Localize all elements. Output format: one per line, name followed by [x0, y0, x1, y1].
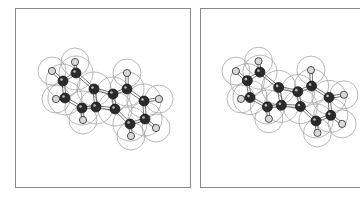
atom-highlight	[141, 98, 144, 101]
carbon-atom	[140, 114, 150, 124]
hydrogen-atom	[314, 129, 321, 136]
atom-highlight	[79, 105, 82, 108]
atom-highlight	[326, 95, 329, 98]
atom-highlight	[309, 83, 312, 86]
hydrogen-atom	[127, 132, 134, 139]
hydrogen-atom	[339, 120, 346, 127]
carbon-atom	[125, 119, 135, 129]
molecule-model-right	[201, 9, 360, 188]
hydrogen-atom	[255, 58, 262, 65]
atom-highlight	[73, 70, 76, 73]
carbon-atom	[58, 76, 68, 86]
atom-highlight	[112, 106, 115, 109]
atom-highlight	[279, 103, 282, 106]
atom-highlight	[110, 91, 113, 94]
atom-highlight	[62, 95, 65, 98]
atom-highlight	[127, 121, 130, 124]
hydrogen-atom	[237, 95, 244, 102]
hydrogen-atom	[307, 67, 314, 74]
carbon-atom	[77, 103, 87, 113]
stereo-panel-right	[200, 8, 360, 188]
hydrogen-atom	[232, 68, 239, 75]
atom-highlight	[313, 118, 316, 121]
carbon-atom	[245, 93, 255, 103]
atom-highlight	[93, 104, 96, 107]
carbon-atom	[274, 82, 284, 92]
carbon-atom	[60, 93, 70, 103]
atom-highlight	[265, 104, 268, 107]
atom-highlight	[60, 78, 63, 81]
atom-highlight	[245, 78, 248, 81]
carbon-atom	[311, 116, 321, 126]
atom-highlight	[295, 89, 298, 92]
carbon-atom	[108, 89, 118, 99]
hydrogen-atom	[340, 91, 347, 98]
hydrogen-atom	[155, 95, 162, 102]
atom-highlight	[257, 69, 260, 72]
hydrogen-atom	[265, 115, 272, 122]
carbon-atom	[139, 96, 149, 106]
carbon-atom	[293, 87, 303, 97]
atom-highlight	[142, 116, 145, 119]
carbon-atom	[324, 92, 334, 102]
carbon-atom	[91, 102, 101, 112]
stereo-panel-left	[15, 8, 191, 188]
atom-highlight	[328, 113, 331, 116]
molecule-model-left	[16, 9, 191, 188]
carbon-atom	[262, 102, 272, 112]
carbon-atom	[326, 110, 336, 120]
carbon-atom	[110, 104, 120, 114]
atom-highlight	[276, 85, 279, 88]
hydrogen-atom	[79, 116, 86, 123]
carbon-atom	[122, 84, 132, 94]
carbon-atom	[276, 100, 286, 110]
atom-highlight	[124, 86, 127, 89]
hydrogen-atom	[48, 67, 55, 74]
hydrogen-atom	[152, 124, 159, 131]
carbon-atom	[307, 81, 317, 91]
atom-highlight	[247, 95, 250, 98]
hydrogen-atom	[71, 58, 78, 65]
hydrogen-atom	[123, 69, 130, 76]
carbon-atom	[71, 68, 81, 78]
carbon-atom	[255, 67, 265, 77]
hydrogen-atom	[52, 95, 59, 102]
atom-highlight	[91, 86, 94, 89]
carbon-atom	[242, 76, 252, 86]
atom-highlight	[298, 104, 301, 107]
carbon-atom	[295, 102, 305, 112]
carbon-atom	[89, 84, 99, 94]
